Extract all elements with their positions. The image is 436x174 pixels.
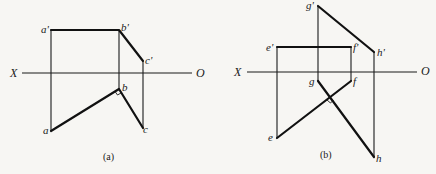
label-b-prime: b' [121,21,130,33]
label-e: e [268,131,273,143]
axis-label-o-b: O [421,64,430,78]
panel-b: X O g' e' f' h' g f e h (b) [233,0,430,164]
front-view-gh [318,6,374,52]
panel-a: X O a' b' c' b a c (a) [9,21,205,163]
caption-a: (a) [103,151,114,163]
label-e-prime: e' [266,41,274,53]
top-view-abc [51,89,143,131]
label-f: f [353,75,358,87]
front-view-abc [51,30,143,61]
axis-label-x-a: X [9,66,18,80]
label-a-prime: a' [41,23,50,35]
label-h: h [376,152,382,164]
label-g-prime: g' [306,0,315,11]
projection-diagram: X O a' b' c' b a c (a) X O [0,0,436,174]
label-g: g [309,75,315,87]
label-h-prime: h' [377,46,386,58]
label-f-prime: f' [353,41,359,53]
label-b: b [122,81,128,93]
top-view-gh [318,81,374,157]
caption-b: (b) [320,149,332,161]
axis-label-o-a: O [196,66,205,80]
label-c: c [143,123,148,135]
label-a: a [43,124,49,136]
axis-label-x-b: X [233,65,242,79]
label-c-prime: c' [145,54,153,66]
